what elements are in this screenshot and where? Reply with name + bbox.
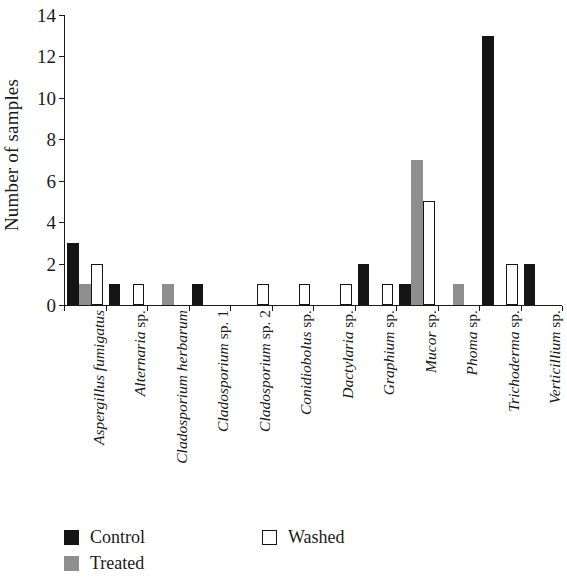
legend-swatch-control-icon	[64, 530, 79, 545]
x-axis-category-label: Aspergillus fumigatus	[91, 310, 107, 510]
legend-entry-control: Control	[64, 528, 145, 546]
chart-legend: Control Treated Washed	[64, 528, 394, 578]
bar-treated	[453, 284, 465, 305]
y-axis-tick-mark	[59, 98, 64, 99]
y-axis-tick-mark	[59, 181, 64, 182]
x-axis-category-label: Graphium sp.	[381, 310, 397, 510]
bar-washed	[506, 264, 518, 305]
x-axis-category-labels: Aspergillus fumigatusAlternaria sp.Clado…	[64, 306, 562, 506]
y-axis-tick-label: 8	[47, 130, 57, 149]
y-axis-tick-mark	[59, 56, 64, 57]
y-axis-tick-label: 12	[37, 47, 56, 66]
bar-washed	[423, 201, 435, 305]
y-axis-tick: 8	[64, 139, 65, 140]
legend-entry-washed: Washed	[262, 528, 345, 546]
x-axis-category-label: Trichoderma sp.	[506, 310, 522, 510]
y-axis-tick-mark	[59, 15, 64, 16]
bar-control	[358, 264, 370, 305]
bar-washed	[133, 284, 145, 305]
x-axis-category-label: Cladosporium sp. 2	[257, 310, 273, 510]
y-axis-tick: 4	[64, 222, 65, 223]
y-axis-tick-label: 2	[47, 254, 57, 273]
y-axis-title-text: Number of samples	[1, 79, 23, 231]
x-axis-category-label: Cladosporium sp. 1	[215, 310, 231, 510]
bar-washed	[382, 284, 394, 305]
y-axis-tick: 6	[64, 181, 65, 182]
legend-label-treated: Treated	[90, 554, 144, 572]
y-axis-tick: 12	[64, 56, 65, 57]
x-axis-category-label: Cladosporium herbarum	[174, 310, 190, 510]
plot-area: 02468101214	[64, 15, 562, 305]
bar-treated	[79, 284, 91, 305]
y-axis-tick-label: 10	[37, 88, 56, 107]
legend-swatch-washed-icon	[262, 530, 277, 545]
y-axis-tick: 2	[64, 264, 65, 265]
bar-control	[399, 284, 411, 305]
legend-entry-treated: Treated	[64, 554, 144, 572]
x-axis-category-label: Conidiobolus sp.	[298, 310, 314, 510]
x-axis-category-label: Dactylaria sp.	[340, 310, 356, 510]
legend-swatch-treated-icon	[64, 556, 79, 571]
bar-control	[524, 264, 536, 305]
y-axis-tick-mark	[59, 264, 64, 265]
y-axis-tick-label: 14	[37, 6, 56, 25]
x-axis-category-label: Alternaria sp.	[132, 310, 148, 510]
legend-label-control: Control	[90, 528, 145, 546]
y-axis-tick-label: 4	[47, 213, 57, 232]
y-axis-title: Number of samples	[0, 0, 24, 310]
bar-chart-figure: Number of samples 02468101214 Aspergillu…	[0, 0, 567, 587]
y-axis-tick-label: 0	[47, 296, 57, 315]
x-axis-category-label: Verticillium sp.	[547, 310, 563, 510]
y-axis-tick-mark	[59, 139, 64, 140]
bar-control	[67, 243, 79, 305]
y-axis-tick-label: 6	[47, 171, 57, 190]
bar-washed	[257, 284, 269, 305]
y-axis-tick: 10	[64, 98, 65, 99]
bar-washed	[91, 264, 103, 305]
bar-control	[192, 284, 204, 305]
y-axis-tick: 14	[64, 15, 65, 16]
x-axis-category-label: Mucor sp.	[423, 310, 439, 510]
bar-control	[109, 284, 121, 305]
bar-washed	[340, 284, 352, 305]
bar-treated	[411, 160, 423, 305]
bar-treated	[162, 284, 174, 305]
bar-control	[482, 36, 494, 305]
y-axis-line	[64, 15, 65, 306]
bar-washed	[299, 284, 311, 305]
y-axis-tick-mark	[59, 222, 64, 223]
x-axis-category-label: Phoma sp.	[464, 310, 480, 510]
legend-label-washed: Washed	[288, 528, 345, 546]
